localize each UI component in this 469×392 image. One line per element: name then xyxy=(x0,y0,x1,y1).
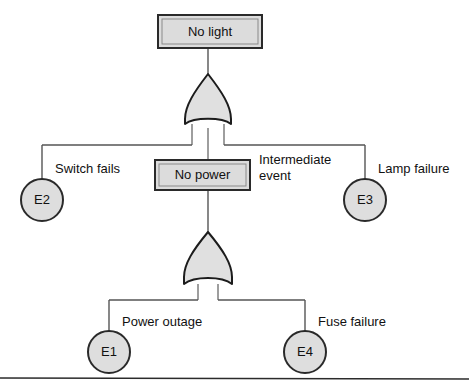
top-event-node[interactable]: No light xyxy=(158,15,262,48)
top-event-label: No light xyxy=(188,24,232,39)
fault-tree-svg: No light E2 Switch fails No power Interm… xyxy=(0,0,469,392)
basic-event-e1[interactable]: E1 Power outage xyxy=(88,314,202,373)
intermediate-event-annotation: Intermediate event xyxy=(259,152,331,183)
top-or-gate-shape[interactable] xyxy=(185,74,231,124)
basic-event-e2-label: Switch fails xyxy=(55,161,121,176)
basic-event-e4-id: E4 xyxy=(297,344,313,359)
basic-event-e1-label: Power outage xyxy=(122,314,202,329)
intermediate-event-annotation-line1: Intermediate xyxy=(259,152,331,167)
bottom-or-gate[interactable] xyxy=(184,232,232,284)
basic-event-e4-label: Fuse failure xyxy=(318,314,386,329)
intermediate-event-label: No power xyxy=(175,167,231,182)
basic-event-e2[interactable]: E2 Switch fails xyxy=(21,161,121,221)
basic-event-e1-id: E1 xyxy=(101,344,117,359)
basic-event-e3[interactable]: E3 Lamp failure xyxy=(344,161,450,221)
bottom-or-gate-shape[interactable] xyxy=(184,232,232,284)
basic-event-e2-id: E2 xyxy=(34,192,50,207)
intermediate-event-node[interactable]: No power xyxy=(155,160,250,190)
intermediate-event-annotation-line2: event xyxy=(259,168,291,183)
footer-divider xyxy=(0,378,469,379)
basic-event-e3-id: E3 xyxy=(357,192,373,207)
fault-tree-canvas: No light E2 Switch fails No power Interm… xyxy=(0,0,469,392)
top-or-gate[interactable] xyxy=(185,74,231,124)
basic-event-e4[interactable]: E4 Fuse failure xyxy=(284,314,386,373)
basic-event-e3-label: Lamp failure xyxy=(378,161,450,176)
